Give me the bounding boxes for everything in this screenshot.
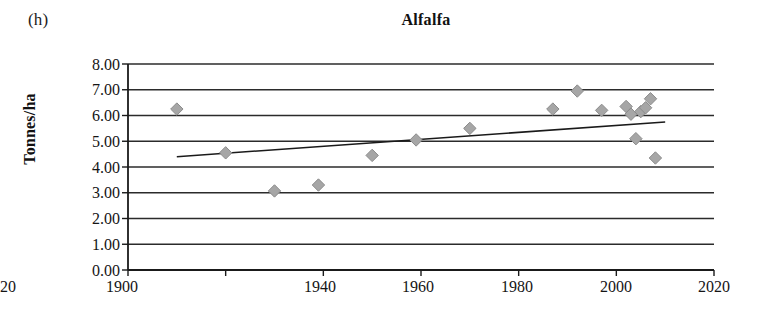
data-point bbox=[547, 103, 559, 115]
gridlines bbox=[128, 64, 714, 270]
data-point bbox=[219, 147, 231, 159]
data-point bbox=[410, 134, 422, 146]
data-point bbox=[366, 149, 378, 161]
plot-area bbox=[0, 0, 764, 315]
data-point bbox=[464, 122, 476, 134]
data-point bbox=[649, 152, 661, 164]
data-point bbox=[312, 179, 324, 191]
data-point bbox=[171, 103, 183, 115]
data-point bbox=[268, 185, 280, 197]
data-point bbox=[571, 85, 583, 97]
figure-panel: (h) Alfalfa Tonnes/ha 8.00 7.00 6.00 5.0… bbox=[0, 0, 764, 315]
data-point bbox=[595, 104, 607, 116]
data-point bbox=[630, 132, 642, 144]
